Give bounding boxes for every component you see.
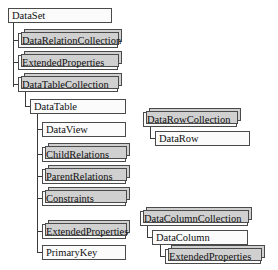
node-childrelations[interactable]: ChildRelations: [42, 147, 126, 162]
node-datacolumn[interactable]: DataColumn: [152, 230, 248, 245]
node-datarow[interactable]: DataRow: [155, 131, 250, 146]
node-extendedproperties-dataset[interactable]: ExtendedProperties: [18, 55, 118, 70]
node-dataview[interactable]: DataView: [42, 122, 126, 137]
node-dataset[interactable]: DataSet: [8, 8, 112, 23]
node-datarowcollection[interactable]: DataRowCollection: [143, 112, 237, 127]
node-primarykey[interactable]: PrimaryKey: [42, 245, 126, 260]
node-datatable[interactable]: DataTable: [30, 99, 126, 114]
object-model-diagram: DataSet DataRelationCollection ExtendedP…: [0, 0, 278, 270]
node-datacolumncollection[interactable]: DataColumnCollection: [140, 211, 248, 226]
node-extendedproperties-datacolumn[interactable]: ExtendedProperties: [165, 249, 261, 264]
node-datatablecollection[interactable]: DataTableCollection: [18, 77, 118, 92]
connector-datatablecollection-trunk: [25, 92, 26, 107]
connector-datatable-trunk: [37, 114, 38, 253]
node-extendedproperties-datatable[interactable]: ExtendedProperties: [42, 224, 126, 239]
node-parentrelations[interactable]: ParentRelations: [42, 169, 126, 184]
connector-dataset-trunk: [13, 23, 14, 87]
node-constraints[interactable]: Constraints: [42, 191, 126, 206]
node-datarelationcollection[interactable]: DataRelationCollection: [18, 33, 118, 48]
